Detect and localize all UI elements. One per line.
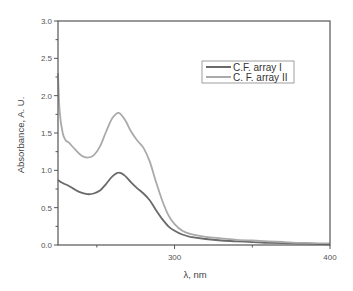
x-tick-label: 400: [323, 253, 337, 262]
legend: C.F. array I C. F. array II: [202, 61, 294, 83]
x-tick-label: 300: [168, 253, 182, 262]
series-line-2: [58, 73, 330, 243]
series-lines: [58, 73, 330, 244]
x-axis-label: λ, nm: [183, 269, 206, 280]
absorbance-chart: 0.00.51.01.52.02.53.0 300400 C.F. array …: [0, 0, 353, 291]
y-tick-label: 0.0: [41, 241, 53, 250]
series-line-1: [58, 173, 330, 245]
y-tick-label: 2.0: [41, 92, 53, 101]
plot-frame: [58, 21, 330, 245]
y-tick-label: 1.0: [41, 166, 53, 175]
y-tick-label: 0.5: [41, 204, 53, 213]
y-tick-label: 1.5: [41, 129, 53, 138]
y-axis-ticks: 0.00.51.01.52.02.53.0: [41, 17, 58, 250]
y-axis-label: Absorbance, A. U.: [15, 97, 26, 174]
legend-label-series-2: C. F. array II: [233, 72, 287, 83]
y-tick-label: 2.5: [41, 54, 53, 63]
x-axis-ticks: 300400: [97, 245, 337, 262]
y-tick-label: 3.0: [41, 17, 53, 26]
